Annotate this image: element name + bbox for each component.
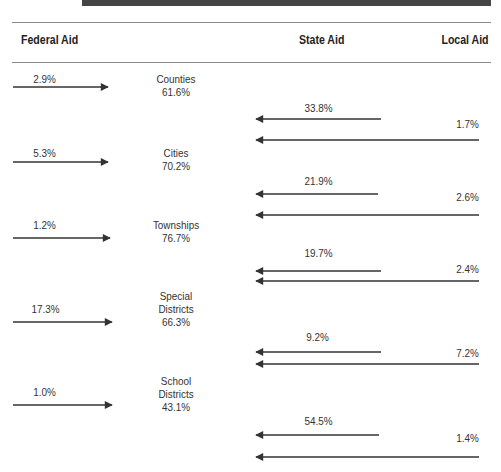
- federal-value-counties: 2.9%: [33, 73, 56, 85]
- federal-value-townships: 1.2%: [33, 219, 56, 231]
- entity-name: Townships: [136, 219, 217, 232]
- entity-own-source-share: 70.2%: [136, 160, 217, 173]
- entity-name: Counties: [136, 73, 217, 86]
- local-value-special-districts: 7.2%: [456, 347, 479, 359]
- state-value-counties: 33.8%: [305, 102, 333, 114]
- federal-value-cities: 5.3%: [33, 147, 56, 159]
- entity-name-line2: Districts: [136, 303, 217, 316]
- entity-name-line2: Districts: [136, 388, 217, 401]
- entity-name: Cities: [136, 147, 217, 160]
- entity-name: School: [136, 375, 217, 388]
- entity-special-districts: Special Districts 66.3%: [136, 290, 217, 329]
- entity-school-districts: School Districts 43.1%: [136, 375, 217, 414]
- entity-own-source-share: 61.6%: [136, 86, 217, 99]
- entity-counties: Counties 61.6%: [136, 73, 217, 99]
- local-value-cities: 2.6%: [456, 191, 479, 203]
- entity-own-source-share: 43.1%: [136, 401, 217, 414]
- state-value-townships: 19.7%: [305, 247, 333, 259]
- entity-cities: Cities 70.2%: [136, 147, 217, 173]
- state-value-special-districts: 9.2%: [306, 331, 329, 343]
- entity-townships: Townships 76.7%: [136, 219, 217, 245]
- entity-own-source-share: 66.3%: [136, 316, 217, 329]
- local-value-townships: 2.4%: [456, 263, 479, 275]
- federal-value-school-districts: 1.0%: [33, 386, 56, 398]
- flow-arrows: [0, 0, 501, 472]
- local-value-school-districts: 1.4%: [456, 432, 479, 444]
- entity-name: Special: [136, 290, 217, 303]
- entity-own-source-share: 76.7%: [136, 232, 217, 245]
- state-value-cities: 21.9%: [305, 175, 333, 187]
- local-value-counties: 1.7%: [456, 118, 479, 130]
- state-value-school-districts: 54.5%: [305, 415, 333, 427]
- federal-value-special-districts: 17.3%: [32, 303, 60, 315]
